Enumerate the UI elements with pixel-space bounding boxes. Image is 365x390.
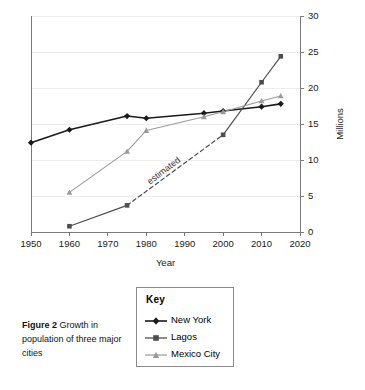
- figure-caption-number: Figure 2: [22, 320, 57, 330]
- data-point: [67, 224, 72, 229]
- y-tick-label: 15: [308, 118, 319, 129]
- x-tick-label: 1970: [97, 238, 118, 249]
- y-axis-title: Millions: [334, 108, 345, 140]
- legend-label-lagos: Lagos: [171, 331, 197, 342]
- x-tick-label: 2020: [289, 238, 310, 249]
- data-point: [125, 203, 130, 208]
- data-point: [278, 54, 283, 59]
- data-point: [143, 115, 149, 121]
- data-point: [258, 104, 264, 110]
- data-point: [278, 93, 284, 98]
- series-lagos: [67, 54, 283, 229]
- data-point: [66, 127, 72, 133]
- legend-swatch-lagos: [144, 330, 168, 342]
- x-tick-label: 1960: [59, 238, 80, 249]
- figure-caption: Figure 2 Growth in population of three m…: [22, 318, 130, 360]
- legend-item-mexico-city: Mexico City: [144, 346, 220, 360]
- y-tick-label: 10: [308, 154, 319, 165]
- legend-label-mexico-city: Mexico City: [171, 348, 220, 359]
- x-axis-title: Year: [156, 257, 175, 268]
- data-point: [278, 101, 284, 107]
- x-tick-label: 2010: [251, 238, 272, 249]
- legend-label-new-york: New York: [171, 314, 211, 325]
- data-point: [221, 133, 226, 138]
- y-tick-label: 20: [308, 82, 319, 93]
- y-tick-label: 0: [308, 226, 313, 237]
- x-tick-label: 1980: [136, 238, 157, 249]
- legend-title: Key: [146, 294, 165, 305]
- population-growth-line-chart: 1950196019701980199020002010202005101520…: [0, 0, 365, 280]
- data-point: [259, 80, 264, 85]
- y-tick-label: 25: [308, 46, 319, 57]
- chart-legend: Key New York Lagos Mexico City: [136, 287, 234, 367]
- series-new-york: [28, 101, 284, 146]
- legend-item-new-york: New York: [144, 312, 211, 326]
- x-tick-label: 1990: [174, 238, 195, 249]
- y-tick-label: 5: [308, 190, 313, 201]
- legend-swatch-new-york: [144, 313, 168, 325]
- legend-item-lagos: Lagos: [144, 329, 197, 343]
- data-point: [124, 113, 130, 119]
- y-tick-label: 30: [308, 10, 319, 21]
- x-tick-label: 2000: [213, 238, 234, 249]
- chart-figure: 1950196019701980199020002010202005101520…: [0, 0, 365, 280]
- x-tick-label: 1950: [20, 238, 41, 249]
- data-point: [28, 140, 34, 146]
- legend-swatch-mexico-city: [144, 347, 168, 359]
